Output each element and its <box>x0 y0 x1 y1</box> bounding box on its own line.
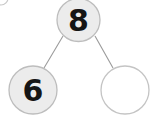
connector-left <box>44 36 63 68</box>
connector-right <box>95 36 113 68</box>
part-node-right[interactable] <box>101 66 149 114</box>
part-node-left-label: 6 <box>23 73 44 108</box>
number-bond-canvas: 8 6 <box>0 0 160 121</box>
number-bond-diagram: 8 6 <box>0 0 160 121</box>
corner-circle-fragment-icon <box>0 0 8 5</box>
whole-node-label: 8 <box>68 3 89 38</box>
